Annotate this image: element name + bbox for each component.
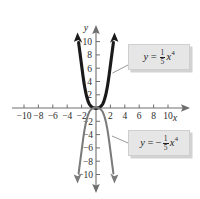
x-tick-label: −8 <box>33 111 43 121</box>
y-axis-label: y <box>83 22 89 33</box>
y-tick-label: −8 <box>83 157 93 167</box>
power-exponent: 4 <box>172 50 175 57</box>
fraction-denominator: 5 <box>160 57 166 66</box>
equation-lhs: y <box>140 138 145 149</box>
x-tick-label: 2 <box>108 111 113 121</box>
equals-sign: = <box>147 138 153 149</box>
y-tick-label: 8 <box>87 50 92 60</box>
equals-sign: = <box>151 52 157 63</box>
equation-callout-negative: y = − 1 5 x 4 <box>128 130 190 156</box>
y-tick-label: 10 <box>83 37 93 47</box>
x-tick-label: 4 <box>122 111 127 121</box>
power-exponent: 4 <box>175 136 178 143</box>
fraction-numerator: 1 <box>160 49 166 57</box>
x-tick-label: −6 <box>48 111 58 121</box>
y-tick-label: −6 <box>83 143 93 153</box>
x-tick-label: −4 <box>62 111 72 121</box>
graph-figure: −10 −8 −6 −4 −2 2 4 6 8 10 10 8 6 4 2 −2… <box>0 0 200 199</box>
callout-upper-leader-line <box>113 65 129 73</box>
equation-callout-positive: y = 1 5 x 4 <box>128 44 190 70</box>
y-tick-label: 4 <box>87 77 92 87</box>
equation-positive: y = 1 5 x 4 <box>143 49 174 65</box>
fraction-denominator: 5 <box>163 143 169 152</box>
fraction-numerator: 1 <box>163 135 169 143</box>
fraction-one-fifth: 1 5 <box>163 135 169 151</box>
power-term: x 4 <box>170 138 178 149</box>
fraction-one-fifth: 1 5 <box>160 49 166 65</box>
x-axis-label: x <box>172 112 178 123</box>
x-tick-labels: −10 −8 −6 −4 −2 2 4 6 8 10 <box>17 111 173 121</box>
equation-negative: y = − 1 5 x 4 <box>140 135 177 151</box>
x-tick-label: 6 <box>137 111 142 121</box>
x-tick-label: 10 <box>163 111 173 121</box>
equation-lhs: y <box>143 52 148 63</box>
power-base: x <box>167 52 172 63</box>
power-base: x <box>170 138 175 149</box>
y-tick-label: 6 <box>87 64 92 74</box>
x-tick-label: −10 <box>17 111 32 121</box>
minus-sign: − <box>156 138 162 149</box>
x-tick-label: 8 <box>151 111 156 121</box>
coordinate-plane: −10 −8 −6 −4 −2 2 4 6 8 10 10 8 6 4 2 −2… <box>0 0 200 199</box>
callout-lower-leader-line <box>112 136 128 143</box>
curve-negative-arrow-right <box>110 173 118 183</box>
power-term: x 4 <box>167 52 175 63</box>
